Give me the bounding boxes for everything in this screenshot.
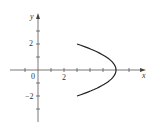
y-axis-label: y bbox=[29, 12, 34, 21]
y-axis-arrow-icon bbox=[36, 13, 40, 19]
chart-plot: x y 0 2 2 −2 bbox=[0, 0, 155, 127]
y-tick-label-neg2: −2 bbox=[25, 92, 34, 101]
x-tick-label-2: 2 bbox=[62, 73, 66, 82]
y-tick-label-2: 2 bbox=[29, 39, 33, 48]
origin-label: 0 bbox=[31, 72, 35, 81]
x-axis-label: x bbox=[141, 71, 146, 80]
